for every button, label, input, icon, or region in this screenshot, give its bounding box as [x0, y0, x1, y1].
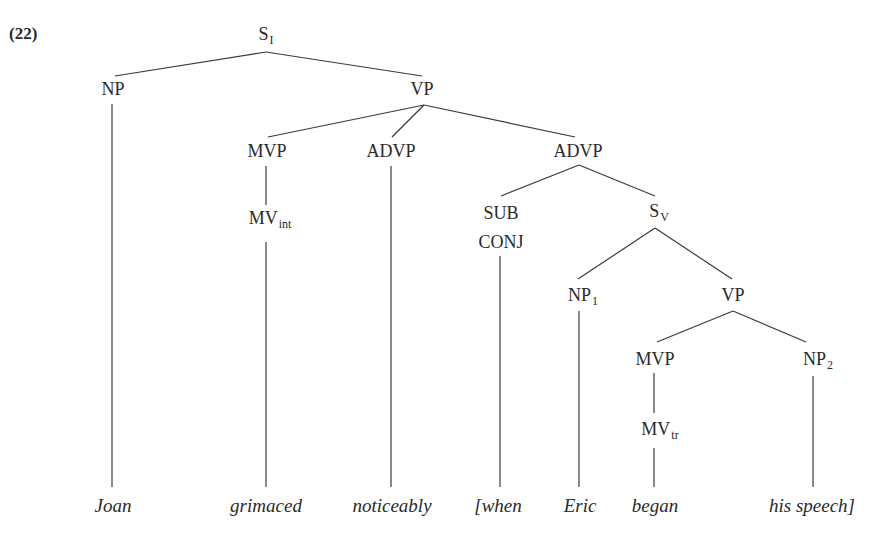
node-sub-conj-line1: SUB	[483, 204, 518, 222]
node-sub-conj-line2: CONJ	[478, 233, 523, 251]
node-mvp-sub: MVP	[635, 350, 674, 368]
node-subscript: I	[270, 33, 274, 47]
node-label: CONJ	[478, 232, 523, 252]
node-subscript: 1	[592, 294, 598, 308]
node-label: MV	[641, 419, 670, 439]
leaf-word: Eric	[564, 496, 597, 515]
leaf-word: Joan	[95, 496, 132, 515]
node-vp-main: VP	[410, 80, 433, 98]
leaf-word: noticeably	[352, 496, 431, 515]
example-number: (22)	[9, 24, 37, 44]
node-np-2: NP2	[803, 350, 833, 371]
node-vp-sub: VP	[721, 286, 744, 304]
node-mvp-main: MVP	[247, 142, 286, 160]
node-label: NP	[101, 79, 124, 99]
tree-branches	[0, 0, 882, 538]
node-subscript: V	[660, 210, 669, 224]
node-advp-2: ADVP	[553, 142, 602, 160]
node-label: VP	[410, 79, 433, 99]
node-label: SUB	[483, 203, 518, 223]
node-label: VP	[721, 285, 744, 305]
node-label: S	[649, 201, 659, 221]
node-advp-1: ADVP	[366, 142, 415, 160]
node-label: S	[258, 24, 268, 44]
node-mv-tr: MVtr	[641, 420, 678, 441]
node-s-root: SI	[258, 25, 273, 46]
node-np-1: NP1	[568, 286, 598, 307]
node-mv-int: MVint	[249, 209, 292, 230]
leaf-word: grimaced	[230, 496, 302, 515]
node-label: NP	[568, 285, 591, 305]
node-label: MV	[249, 208, 278, 228]
leaf-word: [when	[474, 496, 522, 515]
node-label: ADVP	[553, 141, 602, 161]
node-label: NP	[803, 349, 826, 369]
node-label: ADVP	[366, 141, 415, 161]
node-s-v: SV	[649, 202, 669, 223]
leaf-word: began	[632, 496, 678, 515]
node-subscript: 2	[827, 358, 833, 372]
node-label: MVP	[247, 141, 286, 161]
node-subscript: tr	[671, 428, 678, 442]
node-label: MVP	[635, 349, 674, 369]
node-np-subject: NP	[101, 80, 124, 98]
leaf-word: his speech]	[769, 496, 855, 515]
node-subscript: int	[279, 217, 292, 231]
